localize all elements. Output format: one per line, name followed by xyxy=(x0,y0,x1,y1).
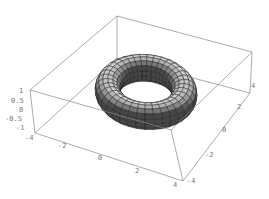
z-axis-labels: 1 0.5 0 -0.5 -1 -4 xyxy=(5,87,33,142)
y-tick: 4 xyxy=(251,82,255,90)
mesh-face xyxy=(139,55,147,57)
mesh-face xyxy=(145,105,153,109)
mesh-face xyxy=(145,114,154,119)
x-tick: 4 xyxy=(173,181,177,189)
x-tick: 0 xyxy=(98,154,102,162)
z-tick: -1 xyxy=(16,124,24,132)
torus-surface xyxy=(95,54,197,129)
mesh-face xyxy=(136,113,145,119)
mesh-face xyxy=(138,71,143,76)
y-tick: -4 xyxy=(187,177,195,185)
torus-3d-plot: 1 0.5 0 -0.5 -1 -4 -2 0 2 4 -4 -2 0 2 4 xyxy=(0,0,269,199)
z-tick: -0.5 xyxy=(5,115,22,123)
corner-tick: -4 xyxy=(25,134,33,142)
x-axis-labels: -2 0 2 4 xyxy=(58,142,177,189)
mesh-face xyxy=(145,103,152,105)
mesh-face xyxy=(145,119,154,124)
mesh-face xyxy=(141,61,147,66)
x-tick: 2 xyxy=(135,167,139,175)
y-tick: -2 xyxy=(205,151,213,159)
mesh-face xyxy=(140,57,147,61)
mesh-face xyxy=(142,66,147,71)
y-tick: 2 xyxy=(237,103,241,111)
z-tick: 0.5 xyxy=(11,97,24,105)
mesh-face xyxy=(147,66,152,72)
z-tick: 1 xyxy=(19,87,23,95)
mesh-face xyxy=(142,76,147,80)
mesh-face xyxy=(147,71,152,76)
y-axis-labels: -4 -2 0 2 4 xyxy=(187,82,255,185)
x-tick: -2 xyxy=(58,142,66,150)
mesh-face xyxy=(142,71,147,76)
mesh-face xyxy=(179,79,184,84)
mesh-face xyxy=(145,109,153,114)
mesh-face xyxy=(153,113,162,119)
z-tick: 0 xyxy=(19,106,23,114)
y-tick: 0 xyxy=(222,126,226,134)
